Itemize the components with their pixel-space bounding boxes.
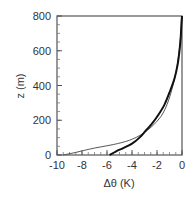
series-layer [63, 16, 182, 155]
x-tick-label: -4 [127, 159, 137, 171]
x-tick-label: 0 [179, 159, 185, 171]
y-tick-label: 600 [33, 45, 51, 57]
series-line-thick [110, 16, 183, 155]
y-tick-label: 400 [33, 80, 51, 92]
x-axis-label: Δθ (K) [103, 177, 134, 189]
minor-ticks [57, 16, 182, 155]
vertical-profile-chart: -10-8-6-4-20 0200400600800 Δθ (K) z (m) [0, 0, 193, 202]
plot-area-border [57, 16, 182, 155]
y-tick-label: 200 [33, 114, 51, 126]
y-tick-label: 0 [45, 149, 51, 161]
x-tick-label: -2 [152, 159, 162, 171]
x-tick-label: -10 [49, 159, 65, 171]
y-tick-label: 800 [33, 10, 51, 22]
series-line-thin [63, 16, 182, 155]
plot-frame [57, 16, 182, 155]
x-tick-label: -8 [77, 159, 87, 171]
x-tick-label: -6 [102, 159, 112, 171]
y-axis-label: z (m) [14, 73, 26, 98]
